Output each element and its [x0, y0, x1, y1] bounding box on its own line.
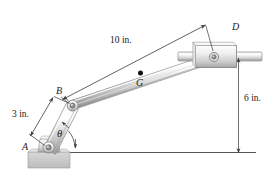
center-of-mass-marker-g: [138, 71, 143, 76]
pin-joint-b: [67, 100, 78, 111]
label-6-in: 6 in.: [244, 94, 261, 104]
label-10-in: 10 in.: [110, 36, 132, 46]
label-point-a: A: [22, 142, 28, 152]
slider-collar-d: [193, 42, 237, 67]
mechanism-figure: 10 in. 3 in. 6 in. A B D G θ: [0, 0, 274, 180]
label-3-in: 3 in.: [12, 110, 29, 120]
pin-joint-a: [43, 142, 54, 153]
label-point-b: B: [56, 86, 62, 96]
label-angle-theta: θ: [57, 129, 62, 140]
label-point-d: D: [232, 22, 239, 32]
label-point-g: G: [136, 78, 143, 88]
